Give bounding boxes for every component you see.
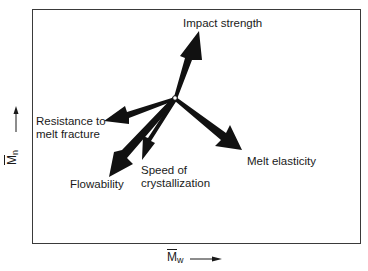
impact-strength-label: Impact strength [183, 17, 262, 30]
y-axis-subscript: n [10, 150, 20, 155]
y-axis-arrow-icon [14, 106, 19, 132]
y-axis-label: Mn [5, 150, 20, 165]
x-axis-subscript: w [177, 255, 184, 265]
melt-elasticity-arrow [175, 97, 242, 150]
flowability-label: Flowability [70, 178, 124, 191]
x-axis-arrow-icon [190, 257, 222, 262]
melt-elasticity-label: Melt elasticity [247, 155, 316, 168]
center-node [173, 96, 178, 101]
y-axis-symbol: M [5, 155, 19, 165]
impact-strength-arrow [174, 31, 202, 99]
x-axis-label: Mw [167, 250, 184, 265]
x-axis-symbol: M [167, 250, 177, 264]
speed-of-crystallization-label: Speed of crystallization [141, 164, 210, 190]
resistance-to-melt-fracture-label: Resistance to melt fracture [36, 115, 106, 141]
